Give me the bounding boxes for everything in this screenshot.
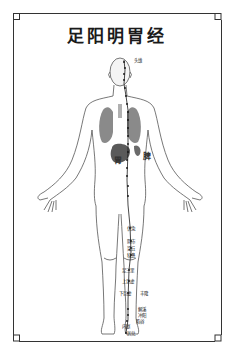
acupoint-label: 厉兑 <box>127 331 135 336</box>
acupoint-label: 足三里 <box>122 268 134 273</box>
acupoint-label: 上巨虚 <box>122 279 134 284</box>
acupoint-label: 犊鼻 <box>127 253 135 258</box>
acupoint-label: 伏兔 <box>127 226 135 231</box>
human-body-figure <box>0 0 234 357</box>
acupoint-label: 陷谷 <box>136 319 144 324</box>
acupoint-label: 阴市 <box>127 239 135 244</box>
acupoint-label: 解溪 <box>138 307 146 312</box>
acupoint-label: 下巨虚 <box>119 291 131 296</box>
acupoint-label: 丰隆 <box>140 291 148 296</box>
acupoint-label: 内庭 <box>122 324 130 329</box>
acupoint-label: 梁丘 <box>127 246 135 251</box>
acupoint-label: 头维 <box>134 58 142 63</box>
organ-label-spleen: 脾 <box>143 150 151 161</box>
acupoint-label: 冲阳 <box>138 313 146 318</box>
organ-label-stomach: 胃 <box>114 154 122 165</box>
